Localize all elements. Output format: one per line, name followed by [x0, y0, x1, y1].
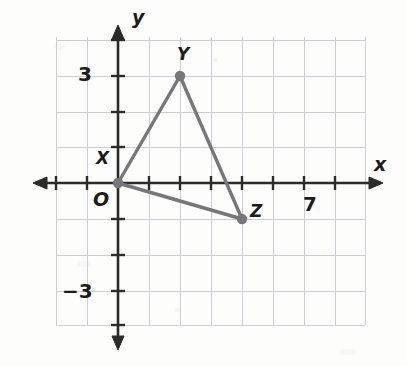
x-axis-tick-label-7: 7 [303, 194, 317, 214]
vertex-label-x: X [96, 150, 109, 167]
vertex-label-z: Z [250, 203, 262, 220]
vertex-point-y [175, 71, 185, 81]
x-axis-label: x [374, 155, 386, 174]
y-axis-tick-label-negative-3: −3 [62, 281, 93, 301]
x-axis-right-arrow [369, 177, 383, 189]
y-axis-label: y [132, 8, 144, 27]
vertex-point-z [237, 214, 247, 224]
vertex-point-x [113, 178, 123, 188]
y-axis-bottom-arrow [112, 336, 124, 350]
y-axis-tick-label-3: 3 [78, 64, 92, 84]
x-axis-left-arrow [33, 177, 47, 189]
y-axis-top-arrow [112, 25, 124, 39]
coordinate-plane-figure: y x 3 −3 7 O X Y Z [0, 0, 407, 366]
vertex-label-y: Y [177, 46, 189, 63]
coordinate-plane-svg [0, 0, 407, 366]
origin-label: O [93, 190, 109, 209]
